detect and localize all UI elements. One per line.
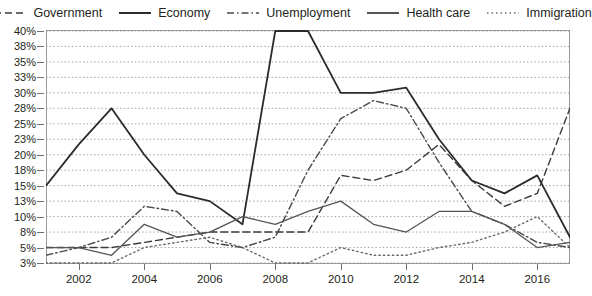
series-line-immigration xyxy=(46,217,570,263)
x-tick-label: 2006 xyxy=(197,273,223,285)
legend-label: Health care xyxy=(406,7,470,20)
y-tick-label: 35% xyxy=(14,56,36,67)
x-axis: 20022004200620082010201220142016 xyxy=(46,264,570,296)
x-tick-label: 2016 xyxy=(524,273,550,285)
plot-area xyxy=(46,30,570,264)
legend-label: Immigration xyxy=(526,7,591,20)
x-tick-mark xyxy=(275,264,276,270)
y-tick-label: 20% xyxy=(14,149,36,160)
y-tick-mark xyxy=(37,186,44,187)
y-tick-mark xyxy=(37,124,44,125)
y-tick-label: 15% xyxy=(14,180,36,191)
x-tick-mark xyxy=(472,264,473,270)
y-tick-mark xyxy=(37,62,44,63)
legend-swatch-icon xyxy=(226,8,260,18)
y-tick-mark xyxy=(37,232,44,233)
x-tick-mark xyxy=(210,264,211,270)
x-tick-label: 2002 xyxy=(66,273,92,285)
y-tick-mark xyxy=(37,77,44,78)
y-tick-label: 40% xyxy=(14,26,36,37)
y-axis: 40%38%35%33%30%28%25%23%20%18%15%13%10%8… xyxy=(0,30,44,264)
chart-legend: GovernmentEconomyUnemploymentHealth care… xyxy=(0,3,585,23)
y-tick-label: 30% xyxy=(14,87,36,98)
gridlines xyxy=(46,31,570,263)
legend-item-unemployment[interactable]: Unemployment xyxy=(226,7,350,20)
y-tick-mark xyxy=(37,31,44,32)
y-tick-mark xyxy=(37,155,44,156)
y-tick-label: 18% xyxy=(14,165,36,176)
x-tick-mark xyxy=(144,264,145,270)
series-line-government xyxy=(46,108,570,247)
y-tick-label: 23% xyxy=(14,134,36,145)
x-tick-label: 2008 xyxy=(262,273,288,285)
y-tick-label: 5% xyxy=(20,242,36,253)
x-tick-mark xyxy=(79,264,80,270)
legend-label: Economy xyxy=(158,7,210,20)
x-tick-mark xyxy=(406,264,407,270)
x-tick-mark xyxy=(537,264,538,270)
y-tick-mark xyxy=(37,108,44,109)
x-tick-label: 2010 xyxy=(328,273,354,285)
y-tick-mark xyxy=(37,263,44,264)
y-tick-label: 13% xyxy=(14,196,36,207)
legend-item-economy[interactable]: Economy xyxy=(118,7,210,20)
x-tick-mark xyxy=(341,264,342,270)
legend-swatch-icon xyxy=(366,8,400,18)
y-tick-label: 38% xyxy=(14,41,36,52)
x-tick-label: 2004 xyxy=(131,273,157,285)
legend-item-government[interactable]: Government xyxy=(0,7,102,20)
y-tick-mark xyxy=(37,139,44,140)
y-tick-label: 10% xyxy=(14,211,36,222)
y-tick-label: 28% xyxy=(14,103,36,114)
y-tick-mark xyxy=(37,248,44,249)
y-tick-mark xyxy=(37,170,44,171)
y-tick-mark xyxy=(37,201,44,202)
x-tick-label: 2012 xyxy=(393,273,419,285)
y-tick-label: 25% xyxy=(14,118,36,129)
legend-label: Unemployment xyxy=(266,7,350,20)
y-tick-mark xyxy=(37,93,44,94)
legend-swatch-icon xyxy=(118,8,152,18)
y-tick-label: 8% xyxy=(20,227,36,238)
y-tick-label: 33% xyxy=(14,72,36,83)
legend-swatch-icon xyxy=(486,8,520,18)
legend-item-immigration[interactable]: Immigration xyxy=(486,7,591,20)
y-tick-mark xyxy=(37,217,44,218)
legend-item-health-care[interactable]: Health care xyxy=(366,7,470,20)
y-tick-label: 3% xyxy=(20,258,36,269)
legend-label: Government xyxy=(33,7,102,20)
x-tick-label: 2014 xyxy=(459,273,485,285)
y-tick-mark xyxy=(37,46,44,47)
legend-swatch-icon xyxy=(0,8,27,18)
